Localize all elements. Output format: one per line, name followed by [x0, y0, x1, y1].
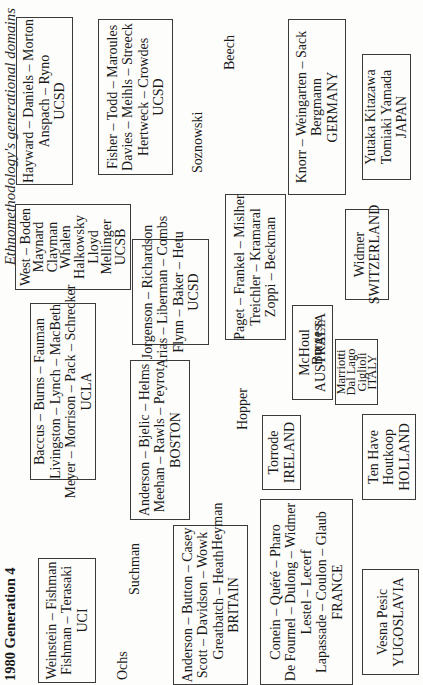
- group-line: Meehan – Rawls – Peyrot: [152, 368, 168, 513]
- group-box-holland: Ten Have Houtkoop HOLLAND: [362, 414, 416, 500]
- group-line: GERMANY: [325, 72, 341, 143]
- group-box-france: Conein – Quéré – Pharo De Fournel – Dulo…: [260, 499, 353, 685]
- group-line: Tomiaki Yamada: [379, 70, 395, 165]
- group-line: Houtkoop: [381, 429, 397, 485]
- group-line: ITALY: [367, 354, 378, 389]
- group-line: SWITZERLAND: [367, 205, 383, 305]
- individual-ochs: Ochs: [115, 651, 131, 680]
- group-line: Hertweck – Crowdes: [136, 38, 152, 156]
- group-line: Yutaka Kitazawa: [363, 69, 379, 164]
- group-line: Fishman – Terasaki: [59, 566, 75, 675]
- group-line: Vesna Pesic: [375, 589, 391, 656]
- group-box-ucsd-1: Hayward – Daniels – Morton Anspach – Ryn…: [16, 17, 73, 185]
- group-line: Halkowsky: [73, 215, 87, 279]
- group-line: HOLLAND: [397, 423, 413, 491]
- group-line: Greatbatch – Heath: [211, 551, 227, 660]
- group-box-ucsd-3: Jorgenson – Richardson Arias – Liberman …: [132, 239, 209, 345]
- group-line: UCSD: [186, 273, 202, 310]
- group-box-ucsb: West – Boden Maynard Clayman Whalen Halk…: [15, 204, 131, 290]
- group-line: Lapassade – Coulon – Glaub: [314, 511, 330, 673]
- group-line: UCSD: [52, 82, 68, 119]
- individual-beech: Beech: [222, 35, 238, 70]
- generation-title: 1980 Generation 4: [2, 567, 19, 681]
- group-line: YUGOSLAVIA: [391, 577, 407, 667]
- group-line: JAPAN: [394, 96, 410, 138]
- group-line: West – Boden: [19, 208, 33, 286]
- group-line: Lloyd: [87, 230, 101, 263]
- group-box-ireland: Torrode IRELAND: [262, 415, 301, 490]
- group-line: Flynn – Baker – Hetu: [171, 231, 187, 352]
- group-box-yugoslavia: Vesna Pesic YUGOSLAVIA: [362, 569, 419, 675]
- group-line: Zoppi – Beckman: [263, 217, 279, 317]
- group-line: Hayward – Daniels – Morton: [21, 19, 37, 183]
- group-line: Widmer: [352, 232, 368, 277]
- group-box-japan: Yutaka Kitazawa Tomiaki Yamada JAPAN: [362, 54, 411, 180]
- group-line: Bergmann: [309, 78, 325, 136]
- group-line: Weinstein – Fishman: [44, 562, 60, 680]
- individual-hopper: Hopper: [235, 388, 251, 430]
- group-line: Treichler – Kramaral: [248, 208, 264, 326]
- individual-suchman: Suchman: [127, 543, 143, 595]
- rotated-page: Ethnomethodology's generational domains …: [0, 0, 423, 685]
- group-line: De Fournel – Dulong – Widmer: [283, 503, 299, 681]
- group-line: Maynard: [32, 222, 46, 273]
- group-line: Knorr – Weingarten – Sack: [294, 31, 310, 184]
- group-line: Conein – Quéré – Pharo: [268, 524, 284, 659]
- group-box-germany: Knorr – Weingarten – Sack Bergmann GERMA…: [288, 19, 346, 195]
- group-line: BOSTON: [168, 412, 184, 468]
- group-line: UCI: [75, 608, 91, 632]
- individual-soznowski: Soznowski: [190, 112, 206, 173]
- group-line: Ten Have: [366, 430, 382, 484]
- group-line: Whalen: [59, 225, 73, 269]
- group-line: Clayman: [46, 222, 60, 273]
- group-line: Mellinger: [100, 219, 114, 274]
- group-line: Anspach – Ryno: [37, 55, 53, 148]
- group-line: FRANCE: [330, 564, 346, 619]
- individual-heyman: Heyman: [210, 503, 226, 550]
- group-line: Livingston – Lynch – MacBeth: [48, 304, 64, 479]
- group-box-italy: Marriotti Dal Lago Giglioli ITALY: [335, 339, 378, 405]
- group-box-uci: Weinstein – Fishman Fishman – Terasaki U…: [38, 558, 96, 683]
- group-line: Meyer – Morrison – Pack – Schrecker: [63, 285, 79, 499]
- group-box-ucla: Baccus – Burns – Fauman Livingston – Lyn…: [30, 303, 96, 480]
- group-line: Jorgenson – Richardson: [140, 225, 156, 359]
- group-line: UCSD: [151, 78, 167, 115]
- group-line: Davies – Meihls – Streeck: [120, 23, 136, 171]
- group-line: Anderson – Bjelic – Helms: [137, 364, 153, 516]
- group-line: BRITAIN: [226, 577, 242, 633]
- group-line: Baccus – Burns – Fauman: [32, 318, 48, 465]
- group-line: Fisher – Todd – Maroules: [105, 25, 121, 169]
- group-line: UCSB: [114, 229, 128, 266]
- group-box-misc: Paget – Frankel – Mislher Treichler – Kr…: [225, 194, 286, 340]
- group-line: Torrode: [266, 430, 282, 474]
- individual-burgess: Burgess: [310, 320, 326, 365]
- group-box-boston: Anderson – Bjelic – Helms Meehan – Rawls…: [130, 360, 190, 520]
- group-line: Paget – Frankel – Mislher: [232, 194, 248, 339]
- group-line: Scott – Davidson – Wowk: [195, 532, 211, 678]
- group-line: UCLA: [79, 372, 95, 410]
- group-box-ucsd-2: Fisher – Todd – Maroules Davies – Meihls…: [98, 19, 173, 175]
- group-box-switzerland: Widmer SWITZERLAND: [345, 209, 389, 300]
- group-line: IRELAND: [282, 422, 298, 483]
- group-line: Arias – Liberman – Combs: [155, 216, 171, 368]
- group-line: Anderson – Button – Casey: [180, 528, 196, 683]
- group-line: Lestel – Lecerf: [299, 550, 315, 635]
